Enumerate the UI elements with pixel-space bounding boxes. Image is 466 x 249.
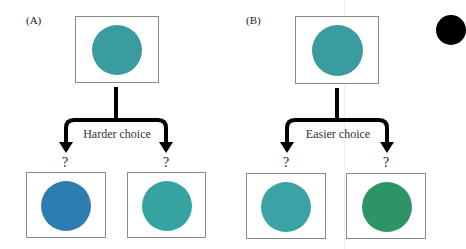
- panel-b-option-right-box: [346, 173, 426, 239]
- option-color-swatch: [362, 182, 412, 232]
- sample-color-swatch: [312, 25, 363, 76]
- panel-b-option-left-box: [246, 173, 326, 239]
- panel-b-choice-label: Easier choice: [306, 128, 370, 140]
- panel-a-sample-box: [75, 16, 159, 83]
- panel-a-option-left-mark: ?: [62, 156, 68, 170]
- corner-bullet-dot: [436, 15, 466, 45]
- arrowhead-left-icon: [59, 142, 73, 153]
- option-color-swatch: [41, 181, 91, 231]
- arrowhead-left-icon: [280, 142, 294, 153]
- panel-a-option-right-mark: ?: [163, 156, 169, 170]
- panel-b-option-right-mark: ?: [383, 156, 389, 170]
- option-color-swatch: [142, 181, 192, 231]
- panel-a-option-right-box: [127, 172, 206, 238]
- option-color-swatch: [261, 182, 311, 232]
- arrowhead-right-icon: [159, 142, 173, 153]
- arrowhead-right-icon: [380, 142, 394, 153]
- panel-a-arrowheads: [59, 142, 173, 153]
- panel-a-option-left-box: [26, 172, 106, 238]
- sample-color-swatch: [92, 25, 142, 75]
- panel-b-option-left-mark: ?: [283, 156, 289, 170]
- panel-b-sample-box: [295, 16, 379, 84]
- panel-a-label: (A): [26, 15, 41, 26]
- panel-a-choice-label: Harder choice: [83, 128, 151, 140]
- panel-b-arrowheads: [280, 142, 394, 153]
- panel-b-label: (B): [246, 15, 261, 26]
